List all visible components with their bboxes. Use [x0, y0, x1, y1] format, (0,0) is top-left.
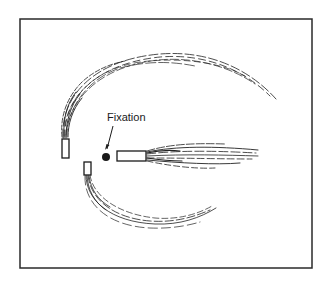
fixation-arrow-icon	[105, 126, 113, 150]
lower-vertical-bar	[84, 162, 91, 175]
motion-trail-diagram: Fixation	[0, 0, 329, 286]
left-vertical-bar	[62, 139, 69, 158]
fixation-point	[102, 153, 110, 161]
fixation-label: Fixation	[107, 111, 146, 123]
horizontal-fan-trail	[147, 144, 258, 169]
right-horizontal-bar	[117, 151, 146, 161]
lower-arc-trail	[85, 175, 216, 228]
upper-arc-trail	[62, 53, 276, 138]
